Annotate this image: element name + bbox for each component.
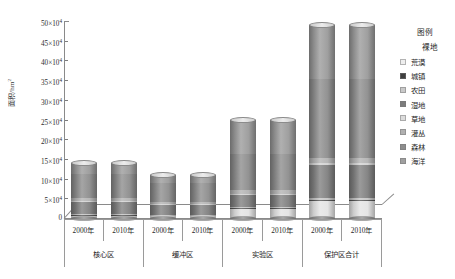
legend-item-2[interactable]: 农田 bbox=[396, 85, 454, 94]
bar-top-cap bbox=[349, 22, 375, 28]
bar-1[interactable] bbox=[111, 163, 137, 218]
bar-top-cap bbox=[270, 117, 296, 123]
bar-segment-海洋 bbox=[349, 25, 375, 79]
legend-label: 湿地 bbox=[411, 99, 425, 110]
bar-segment-森林 bbox=[309, 79, 335, 158]
x-axis-year-label: 2010年 bbox=[104, 219, 144, 241]
y-tick-label: 15×104 bbox=[16, 155, 62, 166]
bar-5[interactable] bbox=[270, 120, 296, 218]
y-tick-label: 50×104 bbox=[16, 17, 62, 28]
legend-title: 图例 bbox=[396, 26, 454, 37]
x-axis-year-label: 2000年 bbox=[303, 219, 343, 241]
bar-segment-湿地 bbox=[71, 202, 97, 214]
x-axis-year-label: 2010年 bbox=[263, 219, 303, 241]
x-axis-group-label: 核心区 bbox=[64, 241, 144, 267]
legend-swatch-icon bbox=[400, 101, 406, 107]
bar-3[interactable] bbox=[190, 175, 216, 218]
bar-segment-湿地 bbox=[190, 205, 216, 214]
y-axis-ticks: 05×10410×10415×10420×10425×10430×10435×1… bbox=[16, 0, 62, 279]
x-axis-group-label: 缓冲区 bbox=[144, 241, 224, 267]
legend-label: 海洋 bbox=[411, 155, 425, 166]
bar-segment-森林 bbox=[190, 183, 216, 202]
x-axis-group-label: 实验区 bbox=[223, 241, 303, 267]
legend-item-0[interactable]: 荒漠 bbox=[396, 57, 454, 66]
y-tick-label: 35×104 bbox=[16, 76, 62, 87]
legend-item-3[interactable]: 湿地 bbox=[396, 100, 454, 109]
bar-segment-森林 bbox=[349, 79, 375, 158]
bar-segment-海洋 bbox=[270, 120, 296, 155]
y-tick-label: 45×104 bbox=[16, 37, 62, 48]
x-axis-group-label: 保护区合计 bbox=[303, 241, 383, 267]
bar-0[interactable] bbox=[71, 163, 97, 218]
bars-container bbox=[64, 21, 382, 218]
bar-7[interactable] bbox=[349, 25, 375, 218]
bar-top-cap bbox=[190, 172, 216, 178]
bar-segment-森林 bbox=[71, 174, 97, 198]
bar-2[interactable] bbox=[150, 175, 176, 218]
legend: 图例 裸地 荒漠城镇农田湿地草地灌丛森林海洋 bbox=[396, 26, 454, 171]
y-axis-title-text: 面积/hm2 bbox=[8, 79, 16, 108]
bar-segment-湿地 bbox=[270, 195, 296, 207]
legend-item-6[interactable]: 森林 bbox=[396, 142, 454, 151]
bar-top-cap bbox=[150, 172, 176, 178]
legend-label: 农田 bbox=[411, 84, 425, 95]
category-axis-group-row: 核心区缓冲区实验区保护区合计 bbox=[64, 241, 382, 267]
x-axis-year-label: 2000年 bbox=[144, 219, 184, 241]
legend-label: 灌丛 bbox=[411, 127, 425, 138]
legend-swatch-icon bbox=[400, 87, 406, 93]
bar-segment-森林 bbox=[270, 154, 296, 190]
bar-segment-森林 bbox=[150, 183, 176, 202]
legend-item-4[interactable]: 草地 bbox=[396, 114, 454, 123]
bar-4[interactable] bbox=[230, 120, 256, 218]
x-axis-year-label: 2010年 bbox=[183, 219, 223, 241]
bar-segment-森林 bbox=[230, 154, 256, 190]
bar-top-cap bbox=[230, 117, 256, 123]
legend-label: 草地 bbox=[411, 113, 425, 124]
x-axis-year-label: 2000年 bbox=[223, 219, 263, 241]
stacked-bar-chart: 面积/hm2 05×10410×10415×10420×10425×10430×… bbox=[0, 0, 455, 279]
bar-segment-湿地 bbox=[111, 202, 137, 214]
legend-label: 荒漠 bbox=[411, 56, 425, 67]
legend-swatch-icon bbox=[400, 129, 406, 135]
legend-items: 荒漠城镇农田湿地草地灌丛森林海洋 bbox=[396, 57, 454, 165]
legend-swatch-icon bbox=[400, 158, 406, 164]
bar-segment-海洋 bbox=[230, 120, 256, 155]
legend-swatch-icon bbox=[400, 73, 406, 79]
bar-segment-森林 bbox=[111, 174, 137, 198]
bar-segment-湿地 bbox=[150, 205, 176, 214]
legend-item-bare-land: 裸地 bbox=[396, 41, 454, 52]
legend-item-1[interactable]: 城镇 bbox=[396, 71, 454, 80]
category-axis: 2000年2010年2000年2010年2000年2010年2000年2010年… bbox=[64, 219, 382, 274]
y-tick-label: 25×104 bbox=[16, 116, 62, 127]
category-axis-year-row: 2000年2010年2000年2010年2000年2010年2000年2010年 bbox=[64, 219, 382, 241]
bar-segment-湿地 bbox=[349, 165, 375, 198]
y-tick-label: 0 bbox=[16, 214, 62, 222]
legend-label: 森林 bbox=[411, 141, 425, 152]
legend-label: 城镇 bbox=[411, 70, 425, 81]
plot-floor-right-edge bbox=[382, 193, 395, 204]
legend-item-5[interactable]: 灌丛 bbox=[396, 128, 454, 137]
bar-segment-海洋 bbox=[309, 25, 335, 79]
y-tick-label: 10×104 bbox=[16, 175, 62, 186]
legend-item-7[interactable]: 海洋 bbox=[396, 156, 454, 165]
bar-top-cap bbox=[111, 160, 137, 166]
bar-top-cap bbox=[71, 160, 97, 166]
bar-segment-湿地 bbox=[230, 195, 256, 207]
legend-swatch-icon bbox=[400, 59, 406, 65]
y-tick-label: 40×104 bbox=[16, 56, 62, 67]
bar-segment-湿地 bbox=[309, 165, 335, 198]
bar-6[interactable] bbox=[309, 25, 335, 218]
legend-swatch-icon bbox=[400, 115, 406, 121]
y-tick-label: 20×104 bbox=[16, 135, 62, 146]
x-axis-year-label: 2000年 bbox=[64, 219, 104, 241]
x-axis-year-label: 2010年 bbox=[342, 219, 382, 241]
legend-swatch-icon bbox=[400, 144, 406, 150]
y-tick-label: 5×104 bbox=[16, 194, 62, 205]
y-tick-label: 30×104 bbox=[16, 96, 62, 107]
